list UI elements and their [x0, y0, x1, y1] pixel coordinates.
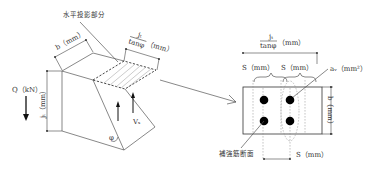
jt-tan-dimension-right: jₜ tanφ （mm）	[242, 33, 318, 64]
block-top-face	[62, 53, 124, 71]
tan-denominator: tanφ	[260, 42, 276, 50]
block-top-front-edge	[62, 71, 93, 80]
rebar-section	[286, 96, 295, 105]
b-dimension-right: b（mm）	[322, 86, 334, 135]
jt-tan-dimension-left: jₜ tanφ （mm）	[124, 29, 176, 70]
S-label-1: S（mm）	[242, 64, 274, 72]
S-label-2: S（mm）	[281, 64, 313, 72]
block-bottom-edge	[62, 131, 124, 150]
jt-dimension: jₜ（mm）	[39, 70, 62, 132]
slant-bottom-edge	[124, 127, 155, 150]
b-label-right: b（mm）	[326, 96, 334, 128]
up-arrow-icon	[131, 92, 135, 98]
brace-1	[254, 73, 287, 82]
left-block-figure: 水平投影部分 b（mm） jₜ tanφ （mm）	[12, 10, 176, 150]
up-arrow-icon	[116, 101, 120, 107]
mm-unit: （mm）	[278, 39, 305, 47]
right-section-figure: jₜ tanφ （mm） S（mm） S（mm） aᵥ（mm²）	[219, 33, 367, 160]
rebar-section	[260, 96, 269, 105]
horizontal-projection-label: 水平投影部分	[63, 10, 105, 19]
Q-load: Q（kN）	[12, 86, 42, 121]
down-arrow-icon	[23, 114, 29, 121]
transition-arrow	[160, 80, 236, 104]
rebar-section	[286, 117, 295, 126]
projection-leader-line	[80, 22, 118, 62]
Vs-arrows: Vₛ	[116, 92, 141, 126]
phi-label: φ	[109, 134, 114, 142]
Vs-label: Vₛ	[132, 118, 141, 126]
rebar-pair-ellipse	[281, 81, 299, 141]
Q-label: Q（kN）	[12, 86, 42, 94]
rebar-leader-line	[241, 121, 264, 148]
S-bottom-label: S（mm）	[296, 151, 328, 159]
tan-denominator: tanφ	[127, 37, 145, 49]
brace-2	[283, 73, 316, 82]
jt-numerator: jₜ	[268, 33, 273, 41]
S-dimension-bottom: S（mm）	[263, 151, 328, 160]
shear-reinforcement-diagram: 水平投影部分 b（mm） jₜ tanφ （mm）	[0, 0, 379, 174]
rebar-section-label: 補強筋断面	[219, 149, 254, 158]
mm-unit: （mm）	[146, 40, 174, 56]
aw-label: aᵥ（mm²）	[330, 65, 367, 73]
